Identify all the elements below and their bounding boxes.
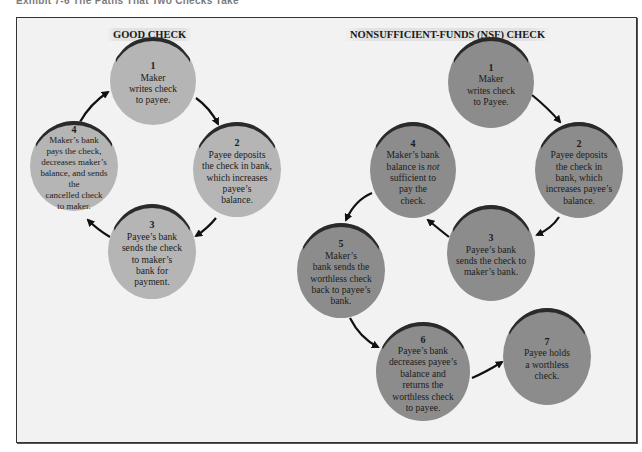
step-number: 3 [150, 219, 155, 230]
step-number: 2 [577, 138, 582, 149]
step-number: 3 [489, 232, 494, 243]
step-text: Maker’s bank pays the check, decreases m… [34, 135, 114, 212]
step-text-emphasis: not [427, 161, 439, 172]
step-number: 2 [235, 137, 240, 148]
nsf-step-4: 4 Maker’s bank balance is not sufficient… [370, 122, 456, 218]
step-text: Payee’s bank sends the check to maker’s … [122, 231, 182, 288]
step-text: Maker’s bank balance is not sufficient t… [387, 149, 440, 206]
good-step-4: 4 Maker’s bank pays the check, decreases… [30, 121, 118, 211]
nsf-step-2: 2 Payee deposits the check in bank, whic… [535, 122, 623, 218]
nsf-step-6: 6 Payee’s bank decreases payee’s balance… [376, 322, 470, 421]
nsf-step-7: 7 Payee holds a worthless check. [503, 308, 591, 405]
step-number: 4 [411, 138, 416, 149]
step-text: Payee deposits the check in bank, which … [202, 149, 272, 206]
nsf-step-5: 5 Maker’s bank sends the worthless check… [297, 223, 385, 318]
step-text: Maker writes check to Payee. [467, 73, 515, 107]
step-number: 6 [421, 334, 426, 345]
step-text-part: sufficient to pay the check. [390, 172, 436, 206]
step-text: Maker writes check to payee. [129, 72, 177, 106]
step-number: 1 [151, 60, 156, 71]
nsf-step-1: 1 Maker writes check to Payee. [448, 37, 534, 128]
nsf-check-title: NONSUFFICIENT-FUNDS (NSF) CHECK [344, 28, 551, 41]
nsf-step-3: 3 Payee’s bank sends the check to maker’… [447, 205, 535, 301]
step-number: 7 [545, 336, 550, 347]
step-number: 4 [72, 124, 77, 135]
step-text: Payee deposits the check in bank, which … [546, 149, 612, 206]
exhibit-caption: Exhibit 7-6 The Paths That Two Checks Ta… [16, 0, 239, 6]
step-text: Payee holds a worthless check. [524, 347, 570, 381]
good-step-1: 1 Maker writes check to payee. [110, 37, 196, 125]
step-number: 1 [489, 62, 494, 73]
step-text: Payee’s bank decreases payee’s balance a… [389, 345, 457, 413]
good-step-2: 2 Payee deposits the check in bank, whic… [193, 122, 281, 217]
good-step-3: 3 Payee’s bank sends the check to maker’… [108, 204, 196, 299]
step-number: 5 [339, 238, 344, 249]
step-text: Payee’s bank sends the check to maker’s … [456, 244, 526, 278]
step-text: Maker’s bank sends the worthless check b… [310, 250, 372, 307]
